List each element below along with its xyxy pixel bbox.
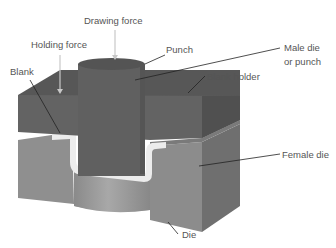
- diagram-graphic: [0, 0, 336, 248]
- label-die: Die: [182, 229, 196, 240]
- deep-drawing-diagram: Drawing force Holding force Punch Male d…: [0, 0, 336, 248]
- label-blank: Blank: [10, 66, 34, 77]
- label-male-die-line1: Male die: [284, 42, 320, 53]
- label-male-die-line2: or punch: [284, 56, 321, 67]
- label-holding-force: Holding force: [31, 39, 87, 50]
- punch: [78, 58, 145, 176]
- label-drawing-force: Drawing force: [84, 15, 143, 26]
- label-blank-holder: Blank holder: [207, 71, 260, 82]
- label-punch: Punch: [166, 44, 193, 55]
- label-female-die: Female die: [282, 149, 329, 160]
